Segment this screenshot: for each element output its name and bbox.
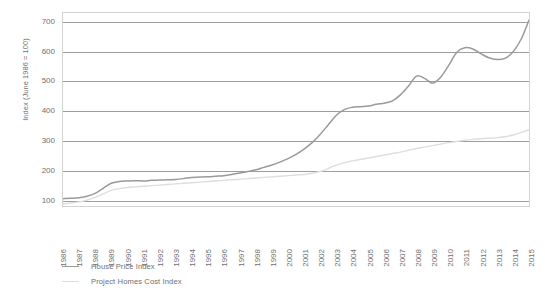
legend-item[interactable]: Project Homes Cost Index [62, 274, 362, 289]
x-tick-label: 2005 [366, 249, 375, 267]
series-line [63, 20, 529, 199]
y-tick-label: 500 [22, 76, 55, 85]
x-tick-label: 2010 [446, 249, 455, 267]
plot-area [62, 12, 530, 207]
legend-swatch [62, 281, 79, 282]
legend-swatch [62, 266, 79, 267]
legend-item[interactable]: House Price Index [62, 259, 362, 274]
x-tick-label: 2012 [479, 249, 488, 267]
y-tick-label: 200 [22, 165, 55, 174]
plot-inner [63, 13, 529, 206]
x-axis-tick-labels: 1986198719881989199019911992199319941995… [62, 209, 530, 251]
x-tick-label: 2011 [462, 249, 471, 266]
x-tick-label: 2008 [414, 249, 423, 267]
y-tick-label: 700 [22, 16, 55, 25]
y-tick-label: 400 [22, 106, 55, 115]
x-tick-label: 2007 [398, 249, 407, 267]
series-line [63, 130, 529, 204]
y-tick-label: 100 [22, 195, 55, 204]
chart-legend: House Price IndexProject Homes Cost Inde… [62, 259, 362, 289]
legend-label: House Price Index [91, 262, 155, 271]
x-tick-label: 2013 [495, 249, 504, 267]
y-tick-label: 600 [22, 46, 55, 55]
legend-label: Project Homes Cost Index [91, 277, 182, 286]
x-tick-label: 2014 [511, 249, 520, 267]
x-tick-label: 2006 [382, 249, 391, 267]
chart-container: Index (June 1986 = 100) 7006005004003002… [0, 0, 545, 296]
y-axis-tick-labels: 700600500400300200100 [22, 12, 55, 207]
series-lines [63, 13, 529, 206]
y-tick-label: 300 [22, 136, 55, 145]
x-tick-label: 2009 [430, 249, 439, 267]
x-tick-label: 2015 [527, 249, 536, 267]
